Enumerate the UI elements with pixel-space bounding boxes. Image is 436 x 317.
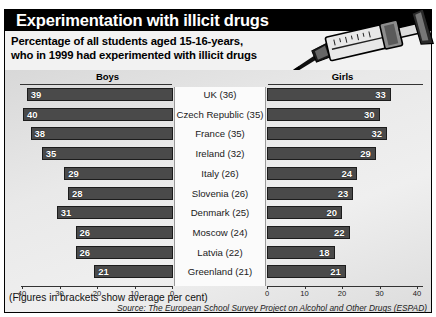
chart-row: 35Ireland (32)29 [5, 146, 431, 166]
bar-boys: 39 [27, 88, 173, 101]
bar-girls: 22 [267, 226, 350, 239]
bar-boys: 31 [57, 206, 173, 219]
country-label: Denmark (25) [175, 205, 265, 220]
chart-row: 39UK (36)33 [5, 87, 431, 107]
subtitle-line-2: who in 1999 had experimented with illici… [11, 48, 311, 62]
axis-tick-label: 10 [295, 289, 315, 298]
bar-boys: 21 [94, 265, 173, 278]
bar-value-girls: 33 [375, 89, 386, 100]
bar-girls: 20 [267, 206, 342, 219]
bar-value-boys: 21 [98, 266, 109, 277]
bar-girls: 23 [267, 187, 353, 200]
bar-value-girls: 18 [319, 247, 330, 258]
bar-girls: 21 [267, 265, 346, 278]
page-title: Experimentation with illicit drugs [16, 11, 269, 30]
legend-boys: Boys [45, 71, 170, 82]
chart-row: 40Czech Republic (35)30 [5, 107, 431, 127]
title-banner: Experimentation with illicit drugs [4, 9, 432, 31]
chart-row: 31Denmark (25)20 [5, 205, 431, 225]
girls-header-rule [268, 84, 423, 85]
bar-value-boys: 38 [35, 128, 46, 139]
axis-tick-label: 20 [332, 289, 352, 298]
country-label: UK (36) [175, 87, 265, 102]
bar-boys: 38 [31, 127, 174, 140]
bar-boys: 26 [76, 226, 174, 239]
bar-value-boys: 26 [80, 247, 91, 258]
chart-row: 26Latvia (22)18 [5, 245, 431, 265]
bar-girls: 33 [267, 88, 391, 101]
bar-value-boys: 39 [31, 89, 42, 100]
chart-row: 29Italy (26)24 [5, 166, 431, 186]
country-label: Greenland (21) [175, 264, 265, 279]
bar-value-girls: 24 [341, 168, 352, 179]
chart-row: 21Greenland (21)21 [5, 264, 431, 284]
boys-header-rule [20, 84, 172, 85]
bar-value-girls: 20 [326, 207, 337, 218]
bar-boys: 40 [23, 108, 173, 121]
axis-tick-label: 30 [370, 289, 390, 298]
girls-axis-line [267, 286, 423, 287]
bar-value-boys: 40 [27, 109, 38, 120]
bar-boys: 29 [64, 167, 173, 180]
chart-rows: 39UK (36)3340Czech Republic (35)3038Fran… [5, 87, 431, 286]
butterfly-bar-chart: Boys Girls 39UK (36)3340Czech Republic (… [5, 70, 431, 312]
bar-boys: 26 [76, 246, 174, 259]
country-label: Latvia (22) [175, 245, 265, 260]
country-label: France (35) [175, 126, 265, 141]
bar-girls: 18 [267, 246, 335, 259]
country-label: Moscow (24) [175, 225, 265, 240]
bar-value-girls: 21 [330, 266, 341, 277]
country-label: Slovenia (26) [175, 186, 265, 201]
bar-value-girls: 22 [334, 227, 345, 238]
bar-value-boys: 35 [46, 148, 57, 159]
bar-girls: 30 [267, 108, 380, 121]
source-credit: Source: The European School Survey Proje… [117, 303, 427, 313]
bar-value-boys: 26 [80, 227, 91, 238]
country-label: Ireland (32) [175, 146, 265, 161]
bar-value-girls: 30 [364, 109, 375, 120]
country-label: Italy (26) [175, 166, 265, 181]
bar-value-girls: 32 [371, 128, 382, 139]
legend-girls: Girls [280, 71, 405, 82]
chart-row: 28Slovenia (26)23 [5, 186, 431, 206]
bar-value-girls: 29 [360, 148, 371, 159]
bar-boys: 35 [42, 147, 173, 160]
footnote: (Figures in brackets show average per ce… [9, 292, 208, 303]
bar-girls: 29 [267, 147, 376, 160]
infographic-figure: Experimentation with illicit drugs Perce… [0, 0, 436, 317]
chart-row: 38France (35)32 [5, 126, 431, 146]
country-label: Czech Republic (35) [175, 107, 265, 122]
bar-boys: 28 [68, 187, 173, 200]
bar-value-boys: 31 [61, 207, 72, 218]
axis-tick-label: 40 [407, 289, 427, 298]
subtitle: Percentage of all students aged 15-16-ye… [11, 34, 311, 62]
bar-value-girls: 23 [338, 188, 349, 199]
axis-tick-label: 0 [257, 289, 277, 298]
subtitle-line-1: Percentage of all students aged 15-16-ye… [11, 34, 311, 48]
bar-girls: 32 [267, 127, 387, 140]
chart-row: 26Moscow (24)22 [5, 225, 431, 245]
bar-value-boys: 29 [68, 168, 79, 179]
bar-value-boys: 28 [72, 188, 83, 199]
bar-girls: 24 [267, 167, 357, 180]
